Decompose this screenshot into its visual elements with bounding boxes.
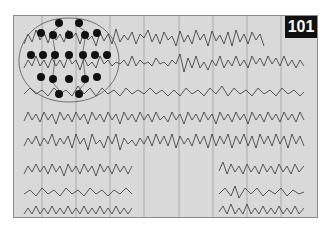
channel-5: [24, 134, 304, 150]
channel-4: [24, 112, 304, 124]
eeg-figure: 101: [13, 15, 318, 218]
channel-7b: [219, 186, 304, 198]
electrodes: [27, 19, 111, 98]
channel-8: [24, 206, 132, 214]
channel-8b: [219, 204, 304, 214]
electrode-montage-diagram: [14, 16, 124, 104]
channel-6: [24, 164, 132, 176]
channel-7: [24, 188, 132, 196]
channel-6b: [219, 162, 304, 174]
figure-number-badge: 101: [285, 16, 317, 38]
